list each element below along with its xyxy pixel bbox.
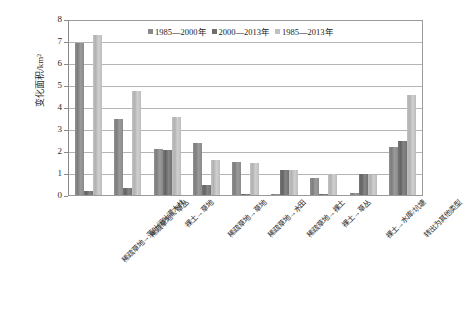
bar-fill (350, 193, 359, 195)
y-axis-tick-label: 0 (38, 191, 62, 200)
x-axis-tick-label: 稀疏草地→水田 (266, 198, 307, 239)
x-axis-tick-label: 转出为其他类型 (423, 198, 464, 239)
bar-fill (271, 194, 280, 195)
bar-group (187, 21, 226, 195)
x-axis-label-group: 稀疏草地→落叶阔叶灌木林稀疏草地→草丛裸土→草地稀疏草地→草地稀疏草地→水田稀疏… (69, 198, 422, 298)
bar-fill (280, 170, 289, 195)
bar-fill (193, 143, 202, 195)
bar-group (147, 21, 186, 195)
bar-fill (211, 160, 220, 195)
bar-fill (154, 149, 163, 195)
bar-fill (202, 185, 211, 195)
bar-fill (232, 162, 241, 195)
bar-group (304, 21, 343, 195)
bar-group (69, 21, 108, 195)
bar-fill (250, 163, 259, 195)
bar-group (108, 21, 147, 195)
y-axis-tick-label: 5 (38, 81, 62, 90)
bar-fill (163, 150, 172, 195)
y-axis-tick-label: 2 (38, 147, 62, 156)
page-corner-mark (14, 288, 24, 297)
x-axis-tick-label: 稀疏草地→草地 (227, 198, 268, 239)
y-axis-tick-label: 3 (38, 125, 62, 134)
bar-fill (114, 119, 123, 195)
bar-fill (132, 91, 141, 195)
bar-fill (93, 35, 102, 195)
bar-fill (359, 174, 368, 195)
bar-fill (241, 194, 250, 195)
bar-series-layer (69, 21, 422, 195)
y-axis-tick-label: 8 (38, 15, 62, 24)
y-axis-tick-label: 6 (38, 59, 62, 68)
bar-group (383, 21, 422, 195)
bar-group (265, 21, 304, 195)
bar-fill (368, 175, 377, 195)
bar-fill (398, 141, 407, 195)
bar-group (226, 21, 265, 195)
x-axis-tick-label: 裸土→水库/坑塘 (384, 198, 427, 241)
y-axis-tick-label: 7 (38, 37, 62, 46)
bar-group (344, 21, 383, 195)
y-axis-tick-label: 1 (38, 169, 62, 178)
bar-fill (328, 174, 337, 195)
bar-fill (123, 188, 132, 195)
bar-fill (319, 194, 328, 195)
x-axis-tick-label: 稀疏草地→裸土 (305, 198, 346, 239)
y-axis-tick-mark (64, 196, 68, 197)
bar-fill (289, 170, 298, 195)
bar-fill (84, 191, 93, 195)
bar-fill (172, 117, 181, 195)
x-axis-tick-label: 稀疏草地→草丛 (148, 198, 189, 239)
y-axis-tick-label: 4 (38, 103, 62, 112)
bar-fill (310, 178, 319, 195)
bar-fill (407, 95, 416, 195)
bar-fill (75, 43, 84, 195)
bar-fill (389, 147, 398, 195)
